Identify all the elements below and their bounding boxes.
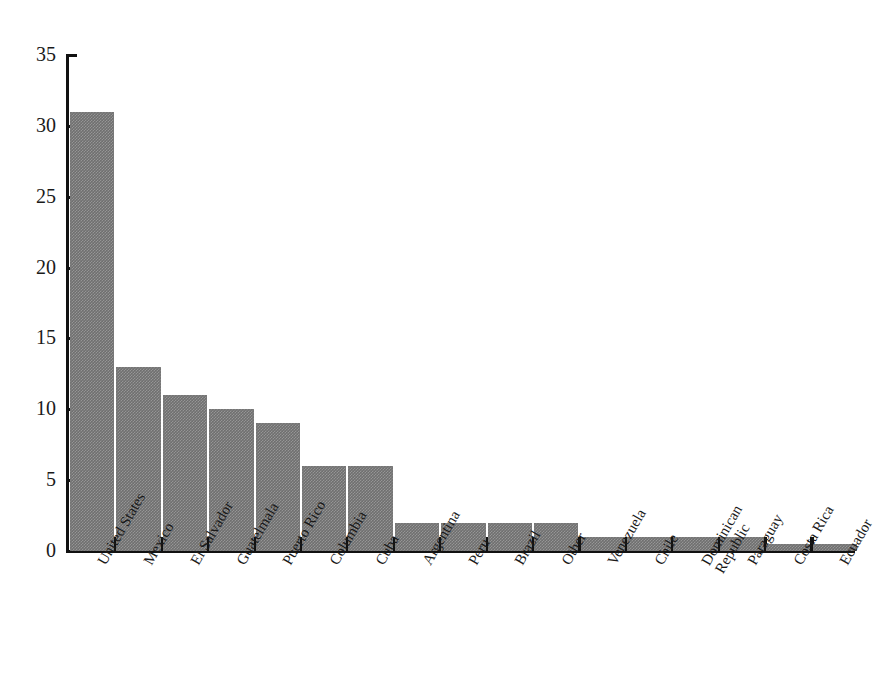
y-axis-tick-label: 0: [0, 540, 56, 560]
y-axis-tick-label-text: 15: [12, 327, 56, 347]
y-axis-tick-label: 35: [0, 44, 56, 64]
y-axis-tick-label: 10: [0, 398, 56, 418]
y-axis-tick-label-text: 0: [12, 540, 56, 560]
plot-area: [66, 55, 855, 551]
y-axis-tick-label: 30: [0, 115, 56, 135]
y-axis-tick-label-text: 5: [12, 469, 56, 489]
y-axis-tick-label-text: 25: [12, 186, 56, 206]
y-axis-tick-label-text: 10: [12, 398, 56, 418]
y-axis-tick-label: 20: [0, 257, 56, 277]
bar-chart: 05101520253035 United StatesMexicoEl Sal…: [0, 0, 893, 688]
y-axis-tick-label: 15: [0, 327, 56, 347]
bar: [70, 112, 114, 551]
y-axis-tick-label-text: 30: [12, 115, 56, 135]
y-axis-tick-label-text: 35: [12, 44, 56, 64]
y-axis-tick-label-text: 20: [12, 257, 56, 277]
y-axis-tick-label: 5: [0, 469, 56, 489]
y-axis-tick-label: 25: [0, 186, 56, 206]
